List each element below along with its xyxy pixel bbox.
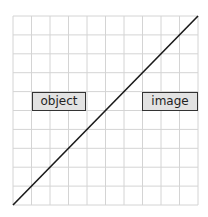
object-label: object [32,92,86,111]
image-label: image [142,92,198,111]
diagram: object image [0,0,208,217]
